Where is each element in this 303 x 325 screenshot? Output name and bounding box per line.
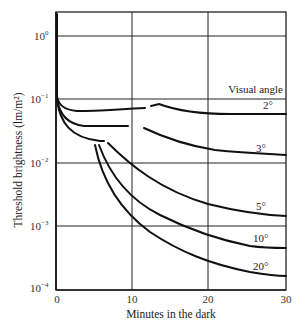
- y-tick-label: 10−3: [30, 219, 49, 232]
- legend-title: Visual angle: [228, 83, 283, 95]
- dark-adaptation-chart: 100 10−1 10−2 10−3 10−4 0 10 20 30 Minut…: [0, 0, 303, 325]
- curve-label-20deg: 20°: [253, 260, 268, 272]
- y-tick-label: 10−1: [30, 92, 49, 105]
- x-tick-label: 0: [54, 293, 60, 305]
- y-tick-label: 10−2: [30, 156, 49, 169]
- curve-label-3deg: 3°: [256, 142, 266, 154]
- x-tick-label: 20: [203, 293, 215, 305]
- curve-label-2deg: 2°: [263, 99, 273, 111]
- curve-label-5deg: 5°: [256, 200, 266, 212]
- y-tick-labels: 100 10−1 10−2 10−3 10−4: [30, 29, 49, 294]
- x-axis-label: Minutes in the dark: [126, 308, 216, 320]
- y-tick-label: 10−4: [30, 281, 49, 294]
- y-tick-label: 100: [34, 29, 49, 42]
- curves: [57, 14, 286, 276]
- y-axis-label: Threshold brightness (lm/m²): [12, 92, 25, 227]
- curve-3deg-seg1: [57, 99, 128, 126]
- grid: [56, 12, 286, 290]
- curve-label-10deg: 10°: [253, 232, 268, 244]
- x-tick-labels: 0 10 20 30: [54, 293, 292, 305]
- x-tick-label: 10: [127, 293, 139, 305]
- plot-frame: [56, 12, 286, 290]
- x-tick-label: 30: [281, 293, 293, 305]
